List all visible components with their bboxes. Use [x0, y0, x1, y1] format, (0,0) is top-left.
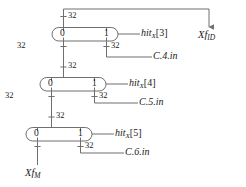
- mux2-port1-label: 1: [92, 79, 97, 89]
- bitwidth-mux1-right-out: 32: [111, 41, 120, 50]
- mux1-port0-label: 0: [60, 29, 65, 39]
- wiring-svg: [0, 0, 246, 187]
- select-signal-hit-5: hitX[5]: [115, 128, 142, 140]
- input-stage-label: XfM: [25, 168, 41, 180]
- input-name: Xf: [25, 167, 34, 178]
- input-sub: M: [34, 171, 40, 180]
- output-sub: ID: [207, 33, 215, 42]
- mux2-port0-label: 0: [48, 79, 53, 89]
- diagram-canvas: 32 0 1 hitX[3] 32 32 C.4.in 32 0 1 hitX[…: [0, 0, 246, 187]
- data-input-c6: C.6.in: [125, 147, 149, 157]
- data-input-c4: C.4.in: [153, 51, 177, 61]
- bitwidth-mux1-left-out: 32: [17, 41, 26, 50]
- wire-group: [26, 9, 209, 165]
- data-input-c5: C.5.in: [139, 97, 163, 107]
- bitwidth-mux1-top: 32: [68, 11, 77, 20]
- mux1-port1-label: 1: [104, 29, 109, 39]
- bitwidth-mux2-left-out: 32: [5, 91, 14, 100]
- hit3-index: [3]: [156, 27, 168, 38]
- hit5-index: [5]: [130, 127, 142, 138]
- bitwidth-mux2-top: 32: [68, 61, 77, 70]
- hit5-name: hit: [115, 127, 126, 138]
- bitwidth-mux2-right-out: 32: [99, 91, 108, 100]
- hit3-name: hit: [141, 27, 152, 38]
- select-signal-hit-3: hitX[3]: [141, 28, 168, 40]
- mux3-port1-label: 1: [78, 129, 83, 139]
- output-name: Xf: [198, 29, 207, 40]
- select-signal-hit-4: hitX[4]: [129, 78, 156, 90]
- output-stage-label: XfID: [198, 30, 215, 42]
- hit4-name: hit: [129, 77, 140, 88]
- mux3-port0-label: 0: [34, 129, 39, 139]
- bitwidth-mux3-top: 32: [56, 111, 65, 120]
- bitwidth-mux3-right-out: 32: [85, 141, 94, 150]
- hit4-index: [4]: [144, 77, 156, 88]
